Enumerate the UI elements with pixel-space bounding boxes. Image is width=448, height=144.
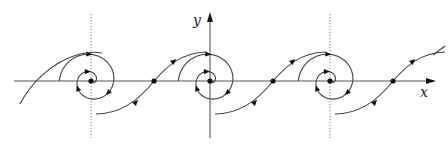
trajectory-arrow-icon bbox=[345, 89, 351, 95]
saddle-point bbox=[390, 78, 395, 83]
separatrix-curve bbox=[335, 81, 393, 114]
trajectory-arrow-icon bbox=[324, 69, 330, 74]
separatrix-curve bbox=[20, 52, 102, 104]
trajectory-arrow-icon bbox=[225, 89, 231, 95]
saddle-point bbox=[151, 78, 156, 83]
trajectory-arrow-icon bbox=[204, 69, 210, 74]
phase-portrait-diagram: y x bbox=[0, 0, 448, 144]
diagram-svg bbox=[0, 0, 448, 144]
spiral-center-point bbox=[327, 78, 332, 83]
y-axis-arrow-icon bbox=[207, 12, 213, 22]
trajectory-arrow-icon bbox=[325, 52, 331, 57]
separatrix-curve bbox=[96, 81, 154, 114]
trajectory-arrow-icon bbox=[315, 85, 320, 92]
saddle-point bbox=[270, 78, 275, 83]
trajectory-arrow-icon bbox=[106, 89, 112, 95]
spiral-trajectory bbox=[298, 54, 353, 99]
trajectory-arrow-icon bbox=[76, 85, 81, 92]
spiral-center-point bbox=[88, 78, 93, 83]
spiral-trajectory bbox=[59, 54, 114, 99]
trajectory-arrow-icon bbox=[195, 85, 200, 92]
trajectory-arrow-icon bbox=[85, 69, 91, 74]
separatrix-curve bbox=[393, 52, 445, 81]
spiral-center-point bbox=[207, 78, 212, 83]
trajectories bbox=[20, 46, 445, 114]
spiral-trajectory bbox=[178, 54, 233, 99]
x-axis-label: x bbox=[420, 84, 428, 100]
y-axis-label: y bbox=[193, 12, 201, 28]
separatrix-curve bbox=[215, 81, 273, 114]
separatrix-curve bbox=[433, 46, 445, 55]
